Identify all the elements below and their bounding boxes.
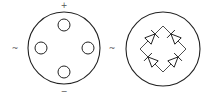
schematic-view (126, 12, 200, 86)
pin-ac-left (35, 42, 47, 54)
pin-ac-right (82, 42, 94, 54)
pin-negative (58, 66, 70, 78)
package-view: +~~− (12, 1, 116, 96)
package-outline (28, 12, 100, 84)
pin-positive (58, 19, 70, 31)
pin-label-negative: − (61, 87, 68, 96)
bridge-wiring (140, 26, 186, 72)
diode-group (144, 30, 182, 67)
schematic-outline (126, 12, 200, 86)
pin-label-ac-right: ~ (109, 44, 116, 53)
pin-label-positive: + (61, 1, 68, 10)
pin-label-ac-left: ~ (12, 44, 19, 53)
bridge-rectifier-diagram: +~~− (0, 0, 212, 98)
pin-group (35, 19, 94, 78)
